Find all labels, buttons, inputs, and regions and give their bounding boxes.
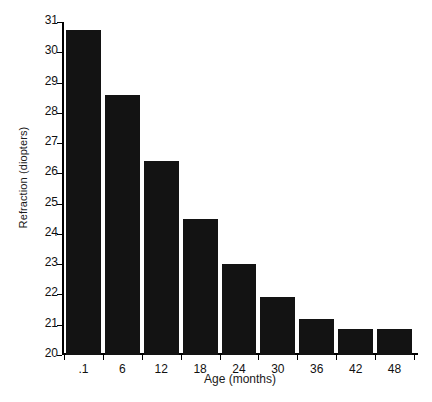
y-tick-label: 23	[28, 255, 58, 269]
y-tick-label: 27	[28, 134, 58, 148]
y-tick-label: 31	[28, 13, 58, 27]
y-tick-label: 30	[28, 43, 58, 57]
plot-area: 202122232425262728293031 .16121824303642…	[62, 22, 418, 355]
y-tick-label: 20	[28, 346, 58, 360]
bar	[144, 161, 179, 355]
y-tick-label: 25	[28, 195, 58, 209]
bar	[260, 297, 295, 355]
bar	[338, 329, 373, 355]
y-tick-label: 29	[28, 74, 58, 88]
bar	[377, 329, 412, 355]
refraction-by-age-bar-chart: Refraction (diopters) 202122232425262728…	[0, 0, 432, 402]
bar	[105, 95, 140, 355]
bar	[299, 319, 334, 355]
bar	[183, 219, 218, 355]
y-tick-label: 26	[28, 164, 58, 178]
x-tick-mark	[375, 355, 376, 360]
x-axis-title: Age (months)	[62, 372, 418, 386]
x-tick-mark	[297, 355, 298, 360]
y-tick-label: 28	[28, 104, 58, 118]
x-tick-mark	[181, 355, 182, 360]
y-tick-label: 24	[28, 225, 58, 239]
y-axis-line	[62, 22, 64, 355]
x-tick-mark	[258, 355, 259, 360]
x-tick-mark	[336, 355, 337, 360]
x-tick-mark	[220, 355, 221, 360]
y-tick-label: 21	[28, 316, 58, 330]
bar	[222, 264, 257, 355]
x-tick-mark	[103, 355, 104, 360]
bar	[66, 30, 101, 355]
x-tick-mark	[414, 355, 415, 360]
x-tick-mark	[64, 355, 65, 360]
y-tick-label: 22	[28, 285, 58, 299]
x-tick-mark	[142, 355, 143, 360]
